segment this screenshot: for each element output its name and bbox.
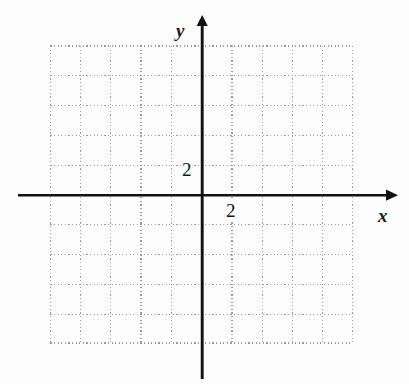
y-axis-tick-label-2: 2 <box>181 160 193 179</box>
y-axis-arrowhead <box>197 15 208 26</box>
y-axis-label: y <box>176 21 184 40</box>
x-axis-label: x <box>378 206 388 225</box>
grid-plot-svg <box>0 0 409 384</box>
axis-arrowheads <box>197 15 398 201</box>
coordinate-grid-figure: y x 2 2 <box>0 0 409 384</box>
axis-lines <box>18 25 387 379</box>
x-axis-tick-label-2: 2 <box>225 201 237 220</box>
x-axis-arrowhead <box>386 190 398 201</box>
